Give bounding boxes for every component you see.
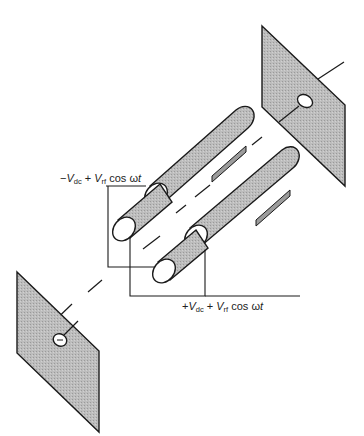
t-symbol: t [138, 172, 141, 184]
quadrupole-rod-left-front [108, 184, 172, 245]
cos-term: cos ω [228, 300, 260, 312]
plus: + [82, 172, 95, 184]
v-symbol: V [94, 172, 101, 184]
entrance-aperture-plate [17, 272, 99, 432]
v-symbol: V [188, 300, 195, 312]
quadrupole-diagram [0, 0, 364, 436]
dc-subscript: dc [196, 305, 204, 314]
v-symbol: V [66, 172, 73, 184]
dc-subscript: dc [74, 177, 82, 186]
top-voltage-label: −Vdc + Vrf cos ωt [60, 172, 141, 186]
cos-term: cos ω [106, 172, 138, 184]
v-symbol: V [216, 300, 223, 312]
plus: + [204, 300, 217, 312]
bottom-voltage-label: +Vdc + Vrf cos ωt [182, 300, 263, 314]
t-symbol: t [260, 300, 263, 312]
exit-axis-line [318, 62, 344, 79]
